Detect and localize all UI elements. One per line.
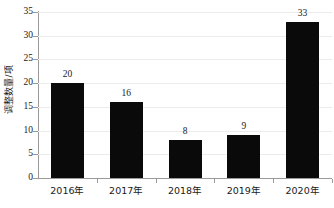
bar[interactable] (286, 22, 319, 179)
x-axis-tick-mark (97, 179, 98, 183)
y-axis-tick-label: 10 (24, 126, 34, 136)
y-axis-tick-mark (33, 154, 38, 155)
y-axis-tick-labels: 05101520253035 (16, 0, 36, 178)
bar-value-label: 33 (298, 9, 308, 19)
x-axis-tick-label: 2016年 (50, 186, 84, 196)
x-axis-tick-label: 2019年 (227, 186, 261, 196)
y-axis-tick-label: 35 (24, 7, 34, 17)
x-axis-tick-mark (156, 179, 157, 183)
bar-value-label: 8 (183, 127, 188, 137)
x-axis-tick-label: 2017年 (109, 186, 143, 196)
x-axis-tick-mark (273, 179, 274, 183)
y-axis-tick-mark (33, 36, 38, 37)
y-axis-tick-mark (33, 131, 38, 132)
y-axis-tick-label: 25 (24, 55, 34, 65)
bar-chart: 调整数量/项 05101520253035 20168933 2016年2017… (0, 0, 334, 208)
bar-value-label: 20 (63, 70, 73, 80)
bar-value-label: 9 (241, 122, 246, 132)
x-axis-tick-label: 2020年 (286, 186, 320, 196)
bar-value-label: 16 (121, 89, 131, 99)
x-axis-tick-mark (214, 179, 215, 183)
y-axis-tick-mark (33, 83, 38, 84)
y-axis-tick-mark (33, 59, 38, 60)
y-axis-tick-mark (33, 12, 38, 13)
bar[interactable] (51, 83, 84, 178)
y-axis-title-text: 调整数量/项 (5, 65, 14, 113)
bar[interactable] (110, 102, 143, 178)
y-axis-tick-mark (33, 178, 38, 179)
bar[interactable] (227, 135, 260, 178)
x-axis-tick-label: 2018年 (168, 186, 202, 196)
y-axis-tick-label: 15 (24, 102, 34, 112)
plot-area: 20168933 (38, 12, 332, 178)
y-axis-tick-mark (33, 107, 38, 108)
x-axis-line (38, 178, 332, 179)
x-axis-tick-mark (332, 179, 333, 183)
y-axis-tick-label: 30 (24, 31, 34, 41)
y-axis-tick-label: 20 (24, 78, 34, 88)
gridline (38, 12, 332, 13)
bar[interactable] (169, 140, 202, 178)
